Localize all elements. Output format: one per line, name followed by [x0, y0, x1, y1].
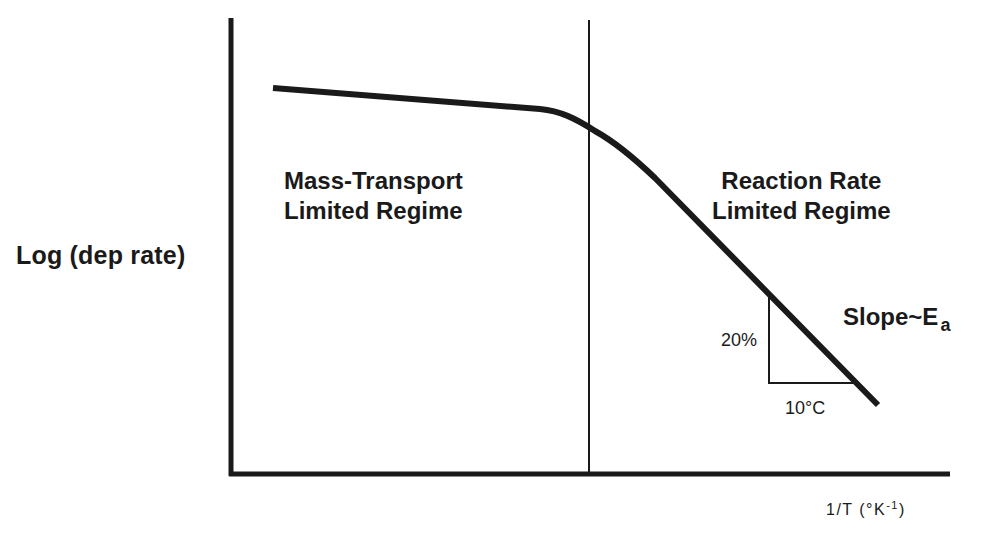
region-right-line2: Limited Regime — [712, 196, 891, 226]
x-axis-label-close: ) — [899, 501, 906, 518]
region-left-line1: Mass-Transport — [284, 166, 463, 196]
rate-curve — [273, 88, 878, 405]
x-axis-label: 1/T (°K-1) — [826, 499, 906, 519]
y-axis-label: Log (dep rate) — [16, 241, 185, 270]
diagram-canvas — [0, 0, 983, 542]
x-axis-label-main: 1/T (°K — [826, 501, 886, 518]
region-left-line2: Limited Regime — [284, 196, 463, 226]
reaction-rate-region-label: Reaction Rate Limited Regime — [712, 166, 891, 226]
mass-transport-region-label: Mass-Transport Limited Regime — [284, 166, 463, 226]
x-axis-label-exponent: -1 — [886, 499, 899, 511]
region-right-line1: Reaction Rate — [712, 166, 891, 196]
triangle-vertical-label: 20% — [721, 330, 757, 351]
triangle-horizontal-label: 10°C — [785, 398, 825, 419]
slope-annotation: Slope~Ea — [843, 303, 950, 331]
slope-subscript: a — [940, 315, 950, 335]
slope-text: Slope~E — [843, 303, 938, 330]
